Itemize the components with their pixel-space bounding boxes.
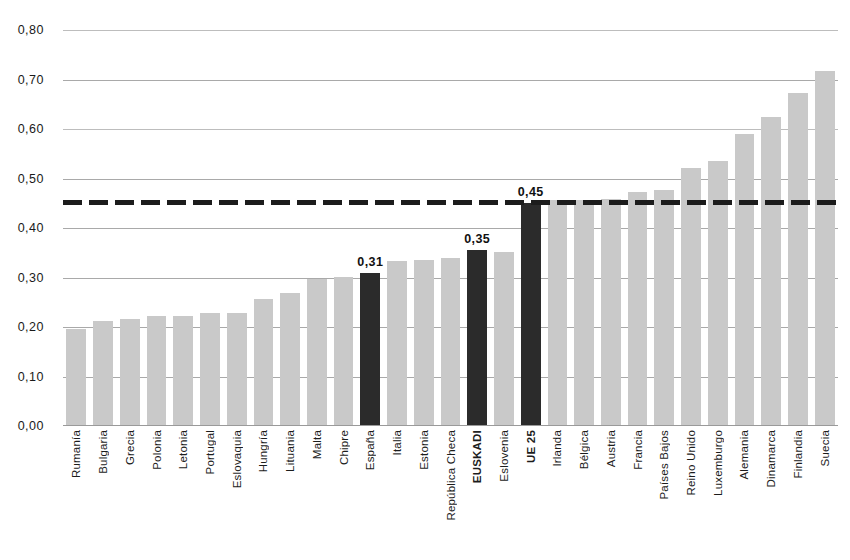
bar-slot[interactable] (200, 30, 220, 426)
x-axis-tick-label: Reino Unido (685, 430, 697, 496)
bar-slot[interactable] (574, 30, 594, 426)
bar[interactable] (788, 93, 808, 426)
plot-area: 0,000,100,200,300,400,500,600,700,80 0,3… (63, 30, 838, 426)
bar[interactable] (147, 316, 167, 426)
bar-slot[interactable] (815, 30, 835, 426)
bar-slot[interactable] (227, 30, 247, 426)
y-axis-tick-label: 0,20 (0, 320, 44, 334)
bar-slot[interactable]: 0,45 (521, 30, 541, 426)
bar-slot[interactable] (280, 30, 300, 426)
bar-slot[interactable] (601, 30, 621, 426)
bar[interactable] (735, 134, 755, 426)
x-axis-tick-label: Portugal (204, 430, 216, 474)
x-axis-tick-label: Letonia (177, 430, 189, 469)
x-axis-tick-label: Finlandia (792, 430, 804, 478)
bar[interactable] (548, 200, 568, 426)
bar-slot[interactable] (120, 30, 140, 426)
x-axis-tick-label: Irlanda (551, 430, 563, 467)
bar[interactable] (441, 258, 461, 426)
x-axis-tick-label: Polonia (151, 430, 163, 470)
bar[interactable] (93, 321, 113, 426)
bar-value-label: 0,45 (518, 185, 544, 199)
bar[interactable] (628, 192, 648, 426)
bar[interactable] (681, 168, 701, 426)
bar-slot[interactable] (334, 30, 354, 426)
bar[interactable] (334, 277, 354, 426)
x-axis-labels: RumaníaBulgariaGreciaPoloniaLetoniaPortu… (63, 430, 838, 560)
x-axis-line (63, 425, 838, 426)
bar[interactable] (307, 279, 327, 426)
x-axis-tick-label: Lituania (284, 430, 296, 472)
x-axis-tick-label: Estonia (418, 430, 430, 470)
x-axis-tick-label: Bélgica (578, 430, 590, 469)
x-axis-tick-label: Dinamarca (765, 430, 777, 487)
x-axis-tick-label: Grecia (124, 430, 136, 465)
x-axis-tick-label: Malta (311, 430, 323, 459)
bar-slot[interactable] (708, 30, 728, 426)
bar-value-label: 0,35 (464, 232, 490, 246)
x-axis-tick-label: Italia (391, 430, 403, 456)
bar-slot[interactable] (414, 30, 434, 426)
bar-highlighted[interactable] (521, 203, 541, 426)
x-axis-tick-label: UE 25 (525, 430, 537, 463)
x-axis-tick-label: Luxemburgo (712, 430, 724, 496)
bar-highlighted[interactable] (360, 273, 380, 426)
bar-slot[interactable] (788, 30, 808, 426)
bar[interactable] (574, 200, 594, 426)
bar-slot[interactable] (494, 30, 514, 426)
bar[interactable] (654, 190, 674, 426)
x-axis-tick-label: España (364, 430, 376, 470)
y-axis-tick-label: 0,40 (0, 221, 44, 235)
y-axis-tick-label: 0,10 (0, 370, 44, 384)
x-axis-tick-label: República Checa (445, 430, 457, 521)
x-axis-tick-label: Bulgaria (97, 430, 109, 474)
bar[interactable] (387, 261, 407, 426)
bar[interactable] (120, 319, 140, 426)
x-axis-tick-label: Rumanía (70, 430, 82, 478)
bar[interactable] (601, 199, 621, 426)
bar-slot[interactable] (681, 30, 701, 426)
bar[interactable] (815, 71, 835, 426)
x-axis-tick-label: Eslovenia (498, 430, 510, 482)
y-axis-tick-label: 0,60 (0, 122, 44, 136)
x-axis-tick-label: Alemania (738, 430, 750, 480)
bar[interactable] (227, 313, 247, 426)
x-axis-tick-label: Austria (605, 430, 617, 467)
bar-slot[interactable] (761, 30, 781, 426)
x-axis-tick-label: Francia (632, 430, 644, 470)
bar-series: 0,310,350,45 (63, 30, 838, 426)
bar-value-label: 0,31 (357, 255, 383, 269)
bar-chart: 0,000,100,200,300,400,500,600,700,80 0,3… (0, 0, 850, 560)
bar[interactable] (280, 293, 300, 426)
bar[interactable] (761, 117, 781, 426)
bar[interactable] (173, 316, 193, 426)
y-axis-tick-label: 0,80 (0, 23, 44, 37)
y-axis-tick-label: 0,30 (0, 271, 44, 285)
bar-slot[interactable] (441, 30, 461, 426)
x-axis-tick-label: EUSKADI (471, 430, 483, 483)
bar-slot[interactable] (147, 30, 167, 426)
bar[interactable] (494, 252, 514, 426)
bar-slot[interactable] (66, 30, 86, 426)
y-axis-tick-label: 0,50 (0, 172, 44, 186)
bar-slot[interactable] (548, 30, 568, 426)
y-axis-tick-label: 0,70 (0, 73, 44, 87)
bar-slot[interactable]: 0,31 (360, 30, 380, 426)
x-axis-tick-label: Suecia (819, 430, 831, 466)
bar-slot[interactable] (307, 30, 327, 426)
x-axis-tick-label: Chipre (338, 430, 350, 465)
bar-highlighted[interactable] (467, 250, 487, 426)
bar-slot[interactable] (735, 30, 755, 426)
bar-slot[interactable] (93, 30, 113, 426)
bar[interactable] (254, 299, 274, 426)
bar-slot[interactable] (173, 30, 193, 426)
bar[interactable] (200, 313, 220, 426)
bar-slot[interactable] (254, 30, 274, 426)
bar-slot[interactable] (628, 30, 648, 426)
bar-slot[interactable]: 0,35 (467, 30, 487, 426)
bar-slot[interactable] (654, 30, 674, 426)
bar-slot[interactable] (387, 30, 407, 426)
x-axis-tick-label: Países Bajos (658, 430, 670, 500)
bar[interactable] (414, 260, 434, 426)
bar[interactable] (66, 329, 86, 426)
